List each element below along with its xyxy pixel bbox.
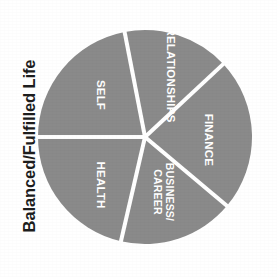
pie-slice-label: FINANCE: [203, 114, 215, 167]
pie-chart-svg: RELATIONSHIPSFINANCEBUSINESS/CAREERHEALT…: [0, 0, 277, 277]
pie-chart-figure: Balanced/Fulfilled Life RELATIONSHIPSFIN…: [0, 0, 277, 277]
pie-slice-label-line: BUSINESS/: [164, 163, 176, 221]
pie-slice-label: BUSINESS/CAREER: [152, 163, 177, 221]
pie-slice-label: SELF: [95, 80, 107, 110]
pie-slice-label: RELATIONSHIPS: [165, 27, 177, 122]
pie-slice-label-line: CAREER: [152, 169, 164, 215]
pie-slice-label: HEALTH: [95, 162, 107, 209]
